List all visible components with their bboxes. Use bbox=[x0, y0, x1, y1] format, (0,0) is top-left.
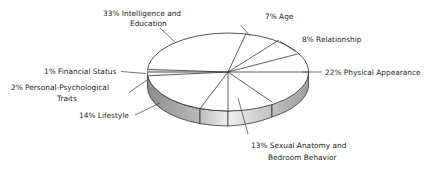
label-lifestyle: 14% Lifestyle bbox=[79, 111, 129, 120]
leader-financial bbox=[121, 72, 146, 74]
leader-lifestyle bbox=[135, 103, 160, 115]
label-personal-line2: Traits bbox=[56, 94, 77, 103]
leader-intelligence bbox=[160, 28, 176, 43]
label-sexual-line1: 13% Sexual Anatomy and bbox=[251, 141, 347, 150]
pie-chart-svg: 33% Intelligence and Education 7% Age 8%… bbox=[0, 0, 446, 176]
label-relationship: 8% Relationship bbox=[302, 35, 362, 44]
leader-personal bbox=[129, 80, 147, 93]
label-intelligence-line1: 33% Intelligence and bbox=[103, 9, 181, 18]
label-personal-line1: 2% Personal-Psychological bbox=[11, 83, 109, 92]
label-sexual-line2: Bedroom Behavior bbox=[268, 153, 338, 162]
label-age: 7% Age bbox=[265, 12, 294, 21]
label-intelligence-line2: Education bbox=[130, 19, 167, 28]
label-physical-appearance: 22% Physical Appearance bbox=[325, 68, 421, 77]
label-financial-status: 1% Financial Status bbox=[44, 67, 116, 76]
pie-chart-figure: 33% Intelligence and Education 7% Age 8%… bbox=[0, 0, 446, 176]
